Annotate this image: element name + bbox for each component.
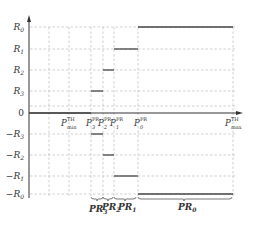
svg-text:TH: TH <box>67 116 75 122</box>
svg-text:P: P <box>109 118 116 128</box>
y-label-zero: 0 <box>18 108 24 118</box>
svg-text:max: max <box>231 124 242 130</box>
grid-vertical <box>49 27 233 196</box>
x-axis-arrow-icon <box>236 111 243 115</box>
step-series <box>29 27 233 194</box>
svg-text:2: 2 <box>103 124 107 130</box>
svg-text:P: P <box>224 118 231 128</box>
y-label-neg-R1: −R1 <box>6 171 24 182</box>
brace-pr0 <box>138 197 232 201</box>
svg-text:P: P <box>97 118 104 128</box>
y-label-R2: R2 <box>12 65 24 76</box>
svg-text:0: 0 <box>140 124 144 130</box>
brace-label-pr0: PR0 <box>177 202 197 213</box>
brace-pr2 <box>103 197 113 201</box>
y-axis-arrow-icon <box>27 15 31 22</box>
svg-text:1: 1 <box>116 124 119 130</box>
brace-pr1 <box>114 197 136 201</box>
x-label-p0: P PR 0 <box>133 116 147 130</box>
y-label-R3: R3 <box>12 86 24 97</box>
axes <box>29 20 238 198</box>
brace-label-pr1: PR1 <box>117 202 136 213</box>
y-label-neg-R2: −R2 <box>6 150 24 161</box>
x-tick-labels: P TH min P PR 3 P PR 2 P PR 1 P PR 0 P T… <box>60 116 242 130</box>
y-label-R1: R1 <box>12 44 24 55</box>
brace-labels: PR3 PR2 PR1 PR0 <box>88 202 197 215</box>
svg-text:P: P <box>133 118 140 128</box>
range-braces <box>91 197 232 201</box>
svg-text:P: P <box>60 118 67 128</box>
x-label-p1: P PR 1 <box>109 116 123 130</box>
y-label-R0: R0 <box>12 22 24 33</box>
svg-text:3: 3 <box>92 124 95 130</box>
grid-horizontal <box>30 27 236 194</box>
svg-text:TH: TH <box>231 116 239 122</box>
svg-text:P: P <box>85 118 92 128</box>
brace-pr3 <box>91 197 103 201</box>
svg-text:PR: PR <box>140 116 147 122</box>
svg-text:PR: PR <box>116 116 123 122</box>
y-label-neg-R3: −R3 <box>6 129 24 140</box>
step-chart: R0 R1 R2 R3 0 −R3 −R2 −R1 −R0 P TH min P… <box>0 0 256 227</box>
y-tick-labels: R0 R1 R2 R3 0 −R3 −R2 −R1 −R0 <box>6 22 24 200</box>
y-label-neg-R0: −R0 <box>6 189 24 200</box>
svg-text:min: min <box>67 124 77 130</box>
